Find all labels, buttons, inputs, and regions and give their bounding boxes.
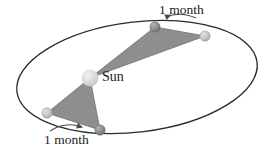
sun-marker-group xyxy=(82,70,99,87)
swept-area-sectors xyxy=(47,27,205,130)
month-label-bottom: 1 month xyxy=(44,133,89,147)
planet-upper-right xyxy=(200,31,210,41)
planet-upper-left xyxy=(150,22,160,32)
sun-sphere xyxy=(82,70,99,87)
diagram-canvas xyxy=(0,0,274,153)
planet-lower-right xyxy=(95,125,105,135)
orbit-ellipse xyxy=(10,8,264,147)
orbit-ellipse-group xyxy=(10,8,264,147)
planet-lower-left xyxy=(42,108,52,118)
month-label-top: 1 month xyxy=(159,3,204,17)
sun-label: Sun xyxy=(102,70,124,84)
kepler-equal-areas-diagram: Sun 1 month 1 month xyxy=(0,0,274,153)
